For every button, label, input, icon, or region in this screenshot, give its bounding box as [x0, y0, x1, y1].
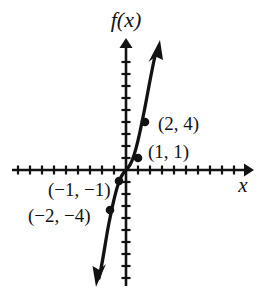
graph-canvas: f(x) x (2, 4) (1, 1) (−1, −1) (−2, −4): [0, 0, 264, 292]
point-label-neg1-neg1: (−1, −1): [48, 179, 111, 201]
labels-group: f(x) x (2, 4) (1, 1) (−1, −1) (−2, −4): [28, 7, 248, 227]
point-label-neg2-neg4: (−2, −4): [28, 205, 91, 227]
curve-arrowhead-down-icon: [93, 264, 107, 287]
data-point-marker: [141, 118, 150, 127]
data-point-marker: [115, 177, 124, 186]
y-axis-arrowhead-icon: [120, 38, 133, 48]
data-point-marker: [106, 206, 115, 215]
cubic-function-graph: f(x) x (2, 4) (1, 1) (−1, −1) (−2, −4): [0, 0, 264, 292]
x-axis-label: x: [237, 173, 248, 197]
point-label-2-4: (2, 4): [158, 113, 199, 135]
function-curve-group: [93, 40, 164, 287]
y-axis-label: f(x): [111, 7, 142, 32]
point-label-1-1: (1, 1): [148, 141, 189, 163]
data-point-marker: [134, 154, 143, 163]
